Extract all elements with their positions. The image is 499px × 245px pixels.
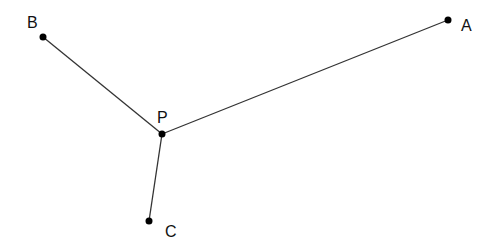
- label-B: B: [27, 14, 38, 31]
- segment-PC: [149, 134, 162, 221]
- point-C: [146, 218, 153, 225]
- point-B: [40, 34, 47, 41]
- label-P: P: [157, 109, 168, 126]
- segment-PB: [43, 37, 162, 134]
- point-P: [159, 131, 166, 138]
- label-C: C: [165, 223, 177, 240]
- segment-PA: [162, 20, 448, 134]
- label-A: A: [461, 17, 472, 34]
- point-A: [445, 17, 452, 24]
- points: [40, 17, 452, 225]
- segments: [43, 20, 448, 221]
- labels: A B P C: [27, 14, 472, 240]
- diagram-canvas: A B P C: [0, 0, 499, 245]
